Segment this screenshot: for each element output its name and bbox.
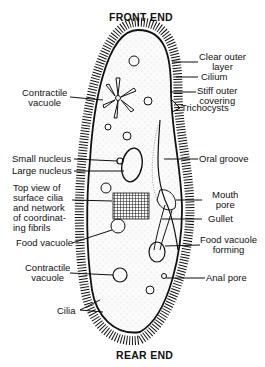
label-clear-outer-layer: Clear outer layer (199, 52, 246, 72)
rear-end-label: REAR END (116, 349, 173, 361)
label-mouth-pore: Mouth pore (212, 190, 238, 210)
label-gullet: Gullet (208, 214, 233, 224)
label-food-vacuole-forming: Food vacuole forming (200, 235, 257, 255)
label-contractile-vacuole-top: Contractile vacuole (22, 88, 67, 108)
surface-cilia-network (113, 193, 149, 219)
label-cilium: Cilium (201, 72, 227, 82)
label-small-nucleus: Small nucleus (12, 154, 71, 164)
label-contractile-vacuole-bottom: Contractile vacuole (25, 263, 70, 283)
label-large-nucleus: Large nucleus (12, 166, 72, 176)
cell-body (87, 30, 182, 332)
label-anal-pore: Anal pore (206, 273, 247, 283)
label-food-vacuole: Food vacuole (16, 238, 73, 248)
label-oral-groove: Oral groove (199, 154, 249, 164)
label-trichocysts: Trichocysts (181, 103, 229, 113)
label-top-view-surface-cilia: Top view of surface cilia and network of… (13, 183, 66, 233)
label-cilia: Cilia (57, 306, 75, 316)
front-end-label: FRONT END (109, 11, 173, 23)
